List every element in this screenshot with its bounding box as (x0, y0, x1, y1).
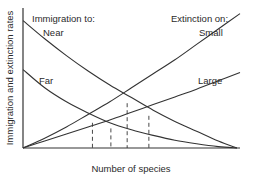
x-axis-label: Number of species (91, 163, 170, 174)
series-label-far: Far (39, 75, 53, 86)
series-label-near: Near (43, 27, 64, 38)
series-label-large: Large (198, 75, 222, 86)
y-axis-label: Immigration and extinction rates (4, 10, 15, 145)
immigration-header: Immigration to: (32, 13, 95, 24)
extinction-header: Extinction on: (171, 13, 228, 24)
series-label-small: Small (199, 27, 223, 38)
island-biogeography-chart: Immigration to: Extinction on: Near Far … (0, 0, 255, 177)
equilibrium-markers (92, 103, 148, 148)
labels: Immigration to: Extinction on: Near Far … (4, 10, 228, 174)
